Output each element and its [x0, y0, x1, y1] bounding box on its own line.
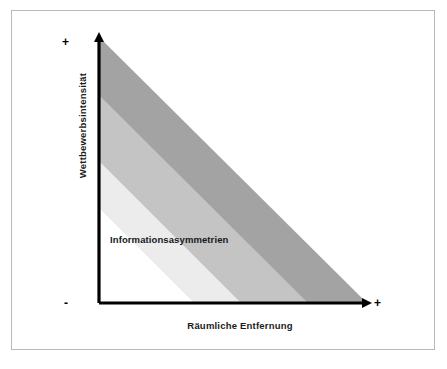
y-axis-label: Wettbewerbsintensität — [77, 41, 88, 211]
figure-container: + - + Wettbewerbsintensität Räumliche En… — [0, 0, 447, 369]
shaded-bands — [99, 37, 367, 303]
y-axis-low-marker: - — [64, 297, 68, 309]
band-annotation-label: Informationsasymmetrien — [110, 234, 228, 245]
y-axis-high-marker: + — [62, 36, 69, 48]
x-axis-high-marker: + — [374, 297, 381, 309]
x-axis-label: Räumliche Entfernung — [120, 320, 360, 331]
diagram-canvas — [0, 0, 447, 369]
